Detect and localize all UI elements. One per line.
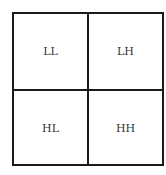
subband-grid: LL LH HL HH [12, 12, 164, 166]
cell-ll: LL [14, 14, 87, 89]
cell-hh: HH [89, 91, 162, 166]
cell-hl: HL [14, 91, 87, 166]
cell-lh: LH [89, 14, 162, 89]
